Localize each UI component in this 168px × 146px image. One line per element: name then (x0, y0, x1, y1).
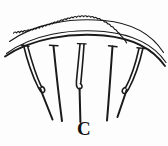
suture-hook-center-tail (80, 89, 81, 123)
suture-line-left-inner-shaft (54, 46, 63, 121)
serrated-tissue-margin (14, 16, 127, 43)
suture-line-right-inner-shaft (107, 47, 113, 121)
suture-loop-right-outer (118, 48, 146, 117)
suture-line-left-inner (50, 45, 63, 121)
figure-panel-label: C (0, 118, 168, 140)
suture-line-left-inner-anchor (50, 45, 59, 46)
suture-loop-right-outer-anchor (137, 48, 146, 49)
suture-loop-left-outer-tail (40, 88, 53, 120)
suture-hook-center-limb-b (81, 44, 84, 83)
suture-line-right-inner (107, 46, 117, 121)
suture-loop-left-outer-anchor (22, 45, 30, 46)
figure-panel-c: C (0, 0, 168, 146)
suture-line-right-inner-anchor (109, 46, 118, 47)
tissue-serrated-margin-group (14, 16, 127, 43)
suture-hook-center (76, 44, 86, 122)
suture-loop-left-outer (22, 45, 53, 120)
tissue-arc-group (5, 20, 166, 66)
suture-loop-right-outer-tail (118, 90, 127, 118)
